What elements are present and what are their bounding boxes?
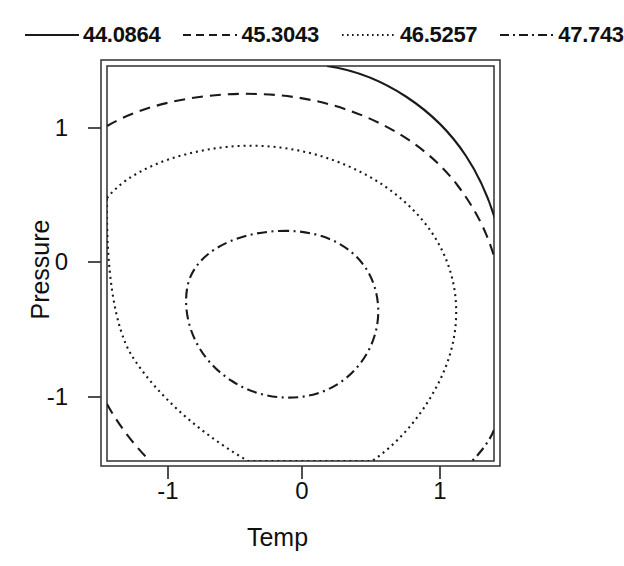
x-tick-label-1: -1: [138, 479, 198, 503]
y-tick-label-1: 1: [8, 116, 68, 140]
legend-label-4: 47.743: [558, 24, 624, 46]
contour-line-45-3043: [107, 94, 498, 272]
plot-outer-frame: [101, 60, 500, 466]
x-tick-label-2: 0: [272, 479, 332, 503]
contour-line-46-5257: [107, 146, 456, 461]
plot-area: [0, 0, 555, 520]
plot-inner-frame: [107, 66, 494, 461]
x-tick-label-3: 1: [410, 479, 470, 503]
contour-line-45-3043-lower: [107, 404, 150, 461]
y-tick-label-3: -1: [8, 385, 68, 409]
y-axis-title: Pressure: [26, 170, 55, 370]
x-axis-title: Temp: [0, 523, 555, 552]
contour-line-44-0864: [327, 66, 496, 222]
contour-line-47-743: [186, 231, 378, 398]
contour-line-47-743-corner: [472, 430, 494, 461]
